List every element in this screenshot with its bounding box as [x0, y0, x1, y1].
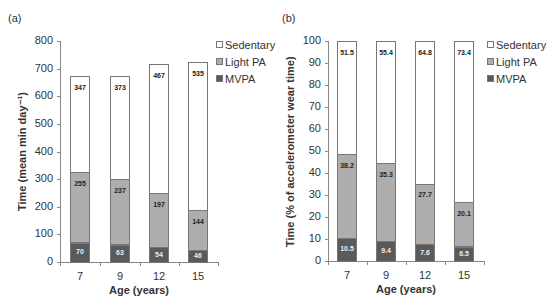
- x-tick: [406, 261, 407, 265]
- bar-value-label: 73.4: [449, 49, 479, 56]
- y-tick: [325, 151, 329, 152]
- y-tick: [325, 217, 329, 218]
- legend-swatch: [487, 58, 494, 65]
- x-tick-label: 7: [332, 269, 362, 281]
- bar-segment-sedentary: [337, 41, 357, 155]
- y-tick: [325, 41, 329, 42]
- y-tick: [325, 107, 329, 108]
- bar-segment-light-pa: [454, 202, 474, 247]
- x-tick-label: 12: [410, 269, 440, 281]
- y-axis-title: Time (% of accelerometer wear time): [284, 56, 296, 247]
- legend-swatch: [487, 75, 494, 82]
- bar-value-label: 55.4: [371, 49, 401, 56]
- y-tick: [325, 195, 329, 196]
- x-tick-label: 15: [449, 269, 479, 281]
- y-tick: [325, 63, 329, 64]
- x-tick: [328, 261, 329, 265]
- legend: SedentaryLight PAMVPA: [487, 36, 546, 87]
- y-tick: [325, 239, 329, 240]
- x-tick-label: 9: [371, 269, 401, 281]
- bar-value-label: 38.2: [332, 162, 362, 169]
- bar-value-label: 9.4: [371, 247, 401, 254]
- x-tick: [484, 261, 485, 265]
- chart-panel-b: (b)010203040506070809010010.538.251.579.…: [0, 0, 556, 308]
- y-tick-label: 100: [291, 34, 321, 46]
- bar-value-label: 20.1: [449, 210, 479, 217]
- x-tick: [445, 261, 446, 265]
- legend-label: Light PA: [496, 56, 537, 68]
- bar-value-label: 10.5: [332, 245, 362, 252]
- legend-label: Sedentary: [496, 39, 546, 51]
- legend-item-light-pa: Light PA: [487, 53, 546, 70]
- legend-swatch: [487, 41, 494, 48]
- bar-value-label: 7.6: [410, 249, 440, 256]
- y-tick: [325, 129, 329, 130]
- legend-label: MVPA: [496, 73, 526, 85]
- y-tick: [325, 85, 329, 86]
- bar-value-label: 27.7: [410, 191, 440, 198]
- bar-value-label: 35.3: [371, 171, 401, 178]
- legend-item-sedentary: Sedentary: [487, 36, 546, 53]
- bar-value-label: 6.5: [449, 250, 479, 257]
- bar-value-label: 51.5: [332, 49, 362, 56]
- bar-segment-sedentary: [415, 41, 435, 185]
- bar-segment-sedentary: [376, 41, 396, 164]
- bar-value-label: 64.8: [410, 49, 440, 56]
- panel-label: (b): [282, 12, 295, 24]
- y-tick: [325, 173, 329, 174]
- x-axis-title: Age (years): [346, 283, 466, 295]
- bar-segment-sedentary: [454, 41, 474, 203]
- x-tick: [367, 261, 368, 265]
- y-tick-label: 0: [291, 254, 321, 266]
- legend-item-mvpa: MVPA: [487, 70, 546, 87]
